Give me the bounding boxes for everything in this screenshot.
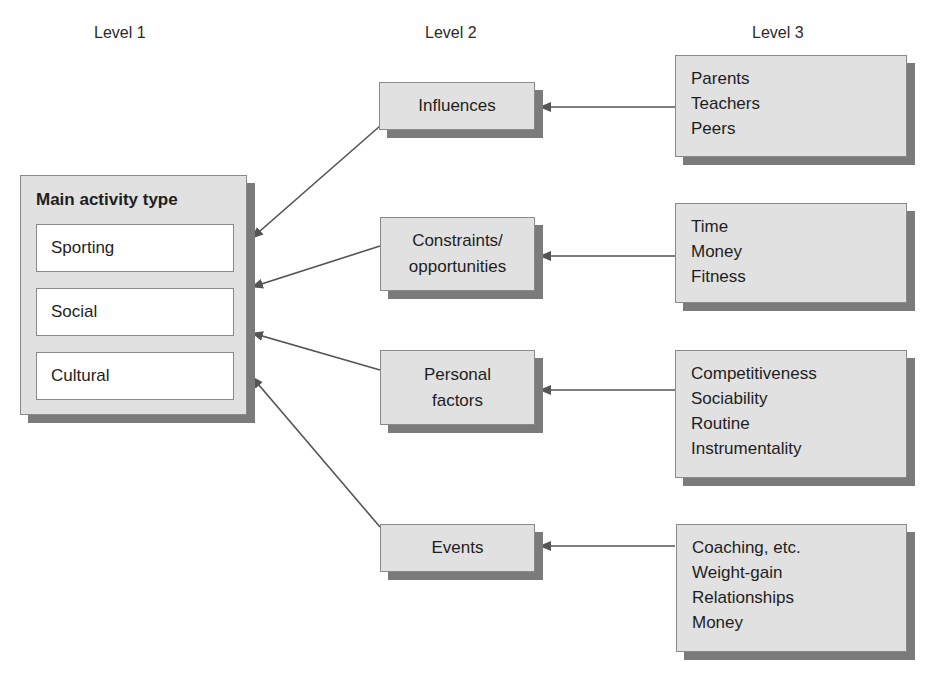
personal-factors-label: Personal factors [424,362,491,414]
personal-factors-detail-box: Competitiveness Sociability Routine Inst… [675,350,907,478]
detail-item: Fitness [691,264,906,289]
detail-item: Coaching, etc. [692,535,906,560]
detail-item: Weight-gain [692,560,906,585]
detail-item: Relationships [692,585,906,610]
detail-item: Competitiveness [691,361,906,386]
events-detail-box: Coaching, etc. Weight-gain Relationships… [676,524,907,652]
influences-detail-box: Parents Teachers Peers [675,55,907,157]
detail-item: Money [691,239,906,264]
detail-item: Teachers [691,91,906,116]
influences-box: Influences [379,82,535,130]
activity-social: Social [36,288,234,336]
detail-item: Peers [691,116,906,141]
constraints-box: Constraints/ opportunities [380,217,535,291]
events-label: Events [432,535,484,561]
detail-item: Parents [691,66,906,91]
activity-sporting: Sporting [36,224,234,272]
constraints-label: Constraints/ opportunities [409,228,506,280]
activity-cultural: Cultural [36,352,234,400]
main-activity-box: Main activity type Sporting Social Cultu… [20,175,247,415]
detail-item: Money [692,610,906,635]
main-activity-title: Main activity type [36,190,178,210]
detail-item: Instrumentality [691,436,906,461]
personal-factors-box: Personal factors [380,350,535,425]
constraints-detail-box: Time Money Fitness [675,203,907,303]
detail-item: Routine [691,411,906,436]
detail-item: Sociability [691,386,906,411]
influences-label: Influences [418,93,496,119]
events-box: Events [380,524,535,572]
detail-item: Time [691,214,906,239]
